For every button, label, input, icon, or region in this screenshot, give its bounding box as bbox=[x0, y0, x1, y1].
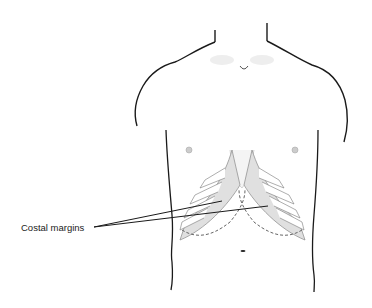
right-shoulder-outline bbox=[267, 41, 347, 142]
right-nipple bbox=[292, 147, 298, 153]
left-rib-cage bbox=[180, 150, 245, 240]
costal-margins-label: Costal margins bbox=[21, 222, 84, 233]
right-flank-outline bbox=[313, 130, 319, 292]
left-nipple bbox=[186, 147, 192, 153]
torso-drawing bbox=[0, 0, 372, 308]
right-rib-cage bbox=[239, 150, 305, 240]
left-flank-outline bbox=[166, 130, 173, 290]
torso-illustration: Costal margins bbox=[0, 0, 372, 308]
navel bbox=[241, 250, 246, 252]
left-shoulder-outline bbox=[135, 42, 215, 126]
